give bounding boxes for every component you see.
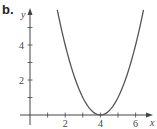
x-tick-label: 4 xyxy=(98,118,103,129)
x-axis xyxy=(20,113,153,118)
panel-label: b. xyxy=(2,2,14,17)
x-tick-label: 6 xyxy=(133,118,138,129)
y-tick-label: 2 xyxy=(19,75,24,86)
parabola-chart: b. 246 24 x y xyxy=(0,0,157,129)
x-tick-label: 2 xyxy=(63,118,68,129)
x-axis-label: x xyxy=(149,117,155,128)
y-axis xyxy=(28,8,33,125)
y-axis-arrow-icon xyxy=(28,8,33,15)
y-axis-label: y xyxy=(20,9,26,20)
y-tick-label: 4 xyxy=(19,40,24,51)
parabola-curve xyxy=(57,10,143,115)
